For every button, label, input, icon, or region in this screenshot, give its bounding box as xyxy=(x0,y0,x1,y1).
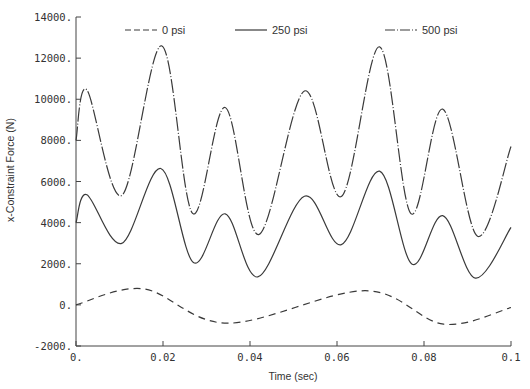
y-tick-label: 4000. xyxy=(40,217,72,229)
line-chart: -2000.0.2000.4000.6000.8000.10000.12000.… xyxy=(0,0,530,389)
legend: 0 psi250 psi500 psi xyxy=(125,24,457,36)
x-tick-label: 0.02 xyxy=(150,351,175,363)
x-tick-label: 0.08 xyxy=(411,351,436,363)
y-axis-title: x-Constraint Force (N) xyxy=(4,118,16,222)
legend-label: 0 psi xyxy=(162,24,185,36)
y-tick-label: 0. xyxy=(59,299,72,311)
legend-label: 250 psi xyxy=(272,24,307,36)
series-250-psi xyxy=(76,168,511,278)
y-tick-label: -2000. xyxy=(34,340,72,352)
y-tick-label: 14000. xyxy=(34,11,72,23)
series-0-psi xyxy=(76,288,511,324)
y-tick-label: 6000. xyxy=(40,176,72,188)
x-axis-title: Time (sec) xyxy=(268,370,317,382)
axes: -2000.0.2000.4000.6000.8000.10000.12000.… xyxy=(34,11,520,363)
x-tick-label: 0.04 xyxy=(237,351,262,363)
x-tick-label: 0.06 xyxy=(324,351,349,363)
x-tick-label: 0.1 xyxy=(502,351,521,363)
y-tick-label: 10000. xyxy=(34,93,72,105)
legend-label: 500 psi xyxy=(422,24,457,36)
x-tick-label: 0. xyxy=(70,351,83,363)
y-tick-label: 8000. xyxy=(40,134,72,146)
y-tick-label: 2000. xyxy=(40,258,72,270)
y-tick-label: 12000. xyxy=(34,52,72,64)
series-group xyxy=(76,46,511,325)
series-500-psi xyxy=(76,46,511,237)
